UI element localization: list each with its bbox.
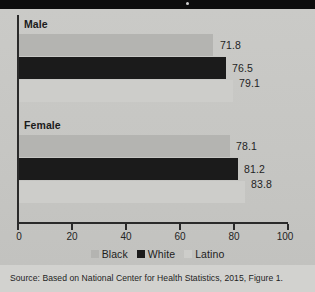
legend-swatch-latino-icon xyxy=(184,250,192,258)
bar-value-male-latino: 79.1 xyxy=(239,77,260,89)
legend-label-latino: Latino xyxy=(195,248,224,260)
x-tick-label-0: 0 xyxy=(16,231,22,242)
figure-page: 0 20 40 60 80 100 Male 71.8 76.5 79.1 Fe… xyxy=(0,0,315,292)
group-label-female: Female xyxy=(24,119,61,131)
x-tick-label-60: 60 xyxy=(174,231,185,242)
bar-male-white[interactable] xyxy=(19,57,226,79)
legend-swatch-black-icon xyxy=(91,250,99,258)
x-tick-40 xyxy=(125,224,127,230)
x-tick-label-100: 100 xyxy=(277,231,294,242)
chart-legend: Black White Latino xyxy=(0,248,315,260)
bar-female-white[interactable] xyxy=(19,158,238,180)
x-tick-20 xyxy=(71,224,73,230)
group-label-male: Male xyxy=(24,18,48,30)
source-caption-text: Source: Based on National Center for Hea… xyxy=(10,273,283,283)
bar-value-male-black: 71.8 xyxy=(220,39,241,51)
legend-label-white: White xyxy=(148,248,175,260)
x-tick-100 xyxy=(287,224,289,230)
x-tick-label-80: 80 xyxy=(228,231,239,242)
bar-male-black[interactable] xyxy=(19,34,213,56)
bar-female-latino[interactable] xyxy=(19,181,245,203)
plot-area: 0 20 40 60 80 100 Male 71.8 76.5 79.1 Fe… xyxy=(0,9,315,265)
x-tick-label-20: 20 xyxy=(66,231,77,242)
bar-value-female-white: 81.2 xyxy=(244,163,265,175)
top-banner-strip xyxy=(0,0,315,9)
x-tick-80 xyxy=(233,224,235,230)
legend-item-latino[interactable]: Latino xyxy=(184,248,224,260)
legend-item-black[interactable]: Black xyxy=(91,248,128,260)
bar-male-latino[interactable] xyxy=(19,80,233,102)
x-tick-label-40: 40 xyxy=(120,231,131,242)
bar-female-black[interactable] xyxy=(19,135,230,157)
bar-value-female-latino: 83.8 xyxy=(251,178,272,190)
chart-panel: 0 20 40 60 80 100 Male 71.8 76.5 79.1 Fe… xyxy=(0,9,315,265)
bar-value-female-black: 78.1 xyxy=(236,140,257,152)
x-tick-60 xyxy=(179,224,181,230)
legend-item-white[interactable]: White xyxy=(137,248,175,260)
legend-swatch-white-icon xyxy=(137,250,145,258)
source-caption-area: Source: Based on National Center for Hea… xyxy=(0,265,315,292)
legend-label-black: Black xyxy=(102,248,128,260)
x-tick-0 xyxy=(17,224,19,230)
banner-dot-icon xyxy=(186,2,189,5)
x-axis-line xyxy=(17,222,288,224)
bar-value-male-white: 76.5 xyxy=(232,62,253,74)
